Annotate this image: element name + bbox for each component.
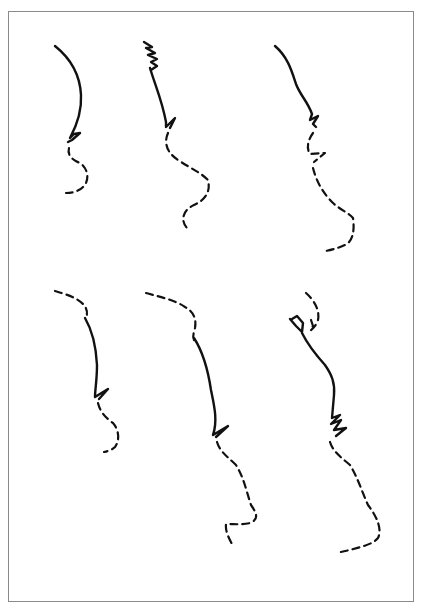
profile-bottom-left — [55, 291, 118, 452]
profile-bottom-right — [290, 293, 380, 553]
profile-top-left — [55, 46, 87, 193]
profile-top-middle — [144, 42, 209, 228]
facial-profiles-diagram — [0, 0, 425, 613]
profile-top-right — [275, 46, 354, 251]
profile-bottom-middle — [146, 293, 256, 546]
